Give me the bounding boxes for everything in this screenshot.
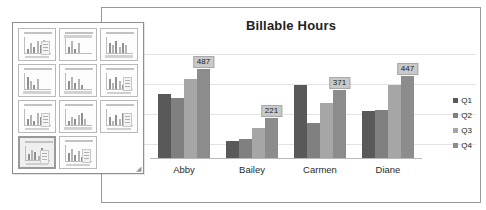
thumb-x-axis — [65, 89, 92, 90]
thumb-y-axis — [106, 109, 107, 126]
thumb-y-axis — [65, 145, 66, 162]
legend-swatch-icon — [453, 143, 458, 148]
bar-q4[interactable]: 487 — [197, 69, 210, 159]
gallery-thumb-clustered-column[interactable] — [18, 28, 56, 61]
thumb-x-axis — [106, 53, 133, 54]
legend-item-q4[interactable]: Q4 — [453, 141, 472, 150]
bar-group[interactable]: 487 — [158, 48, 210, 159]
gallery-thumb-clustered-column-gridlines[interactable] — [100, 100, 138, 133]
thumb-plot — [24, 37, 51, 54]
thumb-plot — [106, 37, 133, 54]
thumb-legend-icon — [40, 150, 49, 164]
legend-label: Q2 — [461, 111, 472, 120]
legend-label: Q1 — [461, 96, 472, 105]
data-label: 447 — [397, 63, 418, 75]
gallery-thumb-clustered-column-wide[interactable] — [59, 100, 97, 133]
category-label: Carmen — [286, 164, 354, 175]
bar-group[interactable]: 221 — [226, 48, 278, 159]
bar-q3[interactable] — [320, 103, 333, 159]
thumb-plot — [65, 73, 92, 90]
gallery-thumb-clustered-column-data-labels[interactable] — [18, 136, 56, 169]
thumb-title-placeholder — [65, 140, 93, 142]
gallery-thumb-clustered-column-with-table[interactable] — [59, 64, 97, 97]
thumb-axis-band — [64, 35, 92, 38]
data-label: 221 — [261, 105, 282, 117]
thumb-title-placeholder — [65, 32, 93, 34]
bar-q3[interactable] — [252, 128, 265, 159]
bar-group[interactable]: 371 — [294, 48, 346, 159]
gallery-thumb-clustered-column-side-legend[interactable] — [18, 100, 56, 133]
thumb-y-axis — [106, 37, 107, 54]
thumb-legend-icon — [41, 41, 50, 55]
thumb-title-placeholder — [25, 141, 53, 143]
thumb-y-axis — [24, 109, 25, 126]
gallery-thumb-100-percent-stacked-column[interactable] — [100, 28, 138, 61]
thumb-y-axis — [24, 73, 25, 90]
legend-swatch-icon — [453, 98, 458, 103]
thumb-x-labels — [107, 128, 131, 130]
bar-q1[interactable] — [226, 141, 239, 159]
thumb-x-labels — [26, 163, 48, 165]
legend-swatch-icon — [453, 128, 458, 133]
bar-q3[interactable] — [388, 85, 401, 159]
gallery-thumb-clustered-column-no-legend[interactable] — [18, 64, 56, 97]
bar-q4[interactable]: 447 — [401, 76, 414, 159]
bar-q3[interactable] — [184, 79, 197, 159]
thumb-plot — [24, 109, 51, 126]
chart-legend[interactable]: Q1Q2Q3Q4 — [453, 96, 472, 150]
category-axis-line — [150, 158, 422, 159]
gallery-thumb-stacked-column[interactable] — [59, 28, 97, 61]
thumb-plot — [65, 37, 92, 54]
thumb-title-placeholder — [65, 68, 93, 70]
data-label: 487 — [193, 56, 214, 68]
category-label: Bailey — [218, 164, 286, 175]
thumb-y-axis — [65, 73, 66, 90]
bar-q2[interactable] — [171, 98, 184, 159]
thumb-x-axis — [65, 53, 92, 54]
category-label: Diane — [354, 164, 422, 175]
thumb-y-axis — [106, 73, 107, 90]
chart-title: Billable Hours — [102, 18, 480, 33]
chart-type-gallery-grid[interactable] — [18, 28, 138, 169]
thumb-title-placeholder — [65, 104, 93, 106]
legend-label: Q4 — [461, 141, 472, 150]
legend-label: Q3 — [461, 126, 472, 135]
thumb-x-labels — [66, 164, 90, 166]
data-label: 371 — [329, 77, 350, 89]
category-label: Abby — [150, 164, 218, 175]
thumb-legend-icon — [82, 149, 91, 163]
thumb-axis-band — [23, 91, 51, 94]
thumb-axis-band — [64, 127, 92, 130]
thumb-legend-icon — [123, 77, 132, 91]
thumb-x-labels — [107, 92, 131, 94]
thumb-title-placeholder — [24, 68, 52, 70]
bar-group[interactable]: 447 — [362, 48, 414, 159]
thumb-legend-icon — [41, 113, 50, 127]
legend-item-q2[interactable]: Q2 — [453, 111, 472, 120]
gallery-thumb-clustered-column-axis-title[interactable] — [100, 64, 138, 97]
bar-q1[interactable] — [362, 111, 375, 159]
bar-q2[interactable] — [239, 139, 252, 159]
bar-q1[interactable] — [158, 94, 171, 159]
thumb-y-axis — [65, 109, 66, 126]
bar-q2[interactable] — [375, 110, 388, 159]
legend-item-q3[interactable]: Q3 — [453, 126, 472, 135]
thumb-y-axis — [65, 37, 66, 54]
chart-type-gallery-panel[interactable]: ◢ — [12, 22, 144, 174]
bar-q4[interactable]: 371 — [333, 90, 346, 159]
thumb-axis-band — [64, 91, 92, 94]
resize-grip-icon[interactable]: ◢ — [136, 165, 141, 172]
chart-panel[interactable]: Billable Hours 487221371447 AbbyBaileyCa… — [101, 7, 481, 203]
gallery-thumb-clustered-column-plain[interactable] — [59, 136, 97, 169]
bar-q2[interactable] — [307, 123, 320, 159]
legend-item-q1[interactable]: Q1 — [453, 96, 472, 105]
screenshot-root: Billable Hours 487221371447 AbbyBaileyCa… — [0, 0, 486, 210]
bar-q4[interactable]: 221 — [265, 118, 278, 159]
thumb-x-axis — [24, 89, 51, 90]
bar-q1[interactable] — [294, 85, 307, 159]
thumb-plot — [106, 73, 133, 90]
thumb-title-placeholder — [24, 32, 52, 34]
category-axis-labels: AbbyBaileyCarmenDiane — [150, 164, 422, 180]
thumb-legend-icon — [123, 113, 132, 127]
thumb-title-placeholder — [106, 104, 134, 106]
